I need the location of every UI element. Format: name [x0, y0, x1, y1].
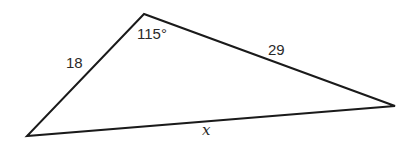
side-left-length: 18	[66, 55, 83, 70]
angle-top-measure: 115°	[137, 26, 167, 41]
side-right-length: 29	[268, 42, 285, 57]
side-bottom-unknown: x	[202, 123, 210, 138]
triangle-diagram: 18 115° 29 x	[0, 0, 416, 151]
